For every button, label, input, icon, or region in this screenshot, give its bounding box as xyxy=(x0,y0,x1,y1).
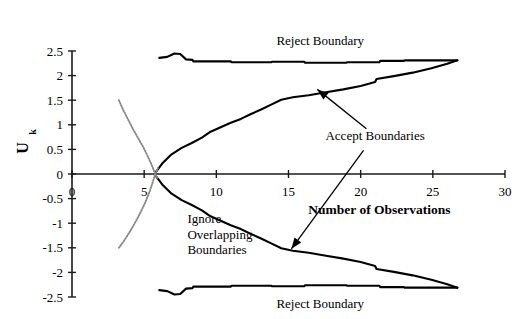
annotation-reject-boundary-top: Reject Boundary xyxy=(276,33,364,48)
y-axis-title: U k xyxy=(14,129,38,154)
y-tick-label: -0.5 xyxy=(42,191,63,206)
x-tick-label: 25 xyxy=(426,184,439,199)
y-tick-label: -2.5 xyxy=(42,290,63,305)
x-tick-label: 10 xyxy=(210,184,223,199)
y-tick-label: 1 xyxy=(57,117,64,132)
y-tick-label: 0 xyxy=(57,167,64,182)
y-axis-title-subscript: k xyxy=(27,129,38,135)
x-axis-title: Number of Observations xyxy=(308,202,450,217)
series-ignore-overlapping-boundary-upper xyxy=(119,100,157,178)
annotation-labels-layer: Reject BoundaryReject BoundaryAccept Bou… xyxy=(187,33,424,311)
y-tick-label: 2.5 xyxy=(47,44,63,59)
y-tick-label: -1 xyxy=(52,216,63,231)
y-tick-label: 0.5 xyxy=(47,142,63,157)
x-tick-label: 0 xyxy=(69,184,76,199)
arrow-to-upper-accept xyxy=(317,89,366,128)
x-tick-label: 20 xyxy=(354,184,367,199)
series-lower-reject-boundary xyxy=(159,285,457,294)
annotation-line: Boundaries xyxy=(187,242,246,257)
chart-figure: -2.5-2-1.5-1-0.500.511.522.5051015202530… xyxy=(0,0,532,319)
annotation-arrows-layer xyxy=(291,89,366,248)
x-tick-label: 15 xyxy=(282,184,295,199)
arrow-head xyxy=(291,237,301,248)
arrow-shaft xyxy=(291,150,363,248)
y-tick-label: 2 xyxy=(57,68,64,83)
x-tick-label: 30 xyxy=(499,184,512,199)
y-tick-label: -1.5 xyxy=(42,240,63,255)
annotation-line: Ignore xyxy=(187,211,221,226)
series-ignore-overlapping-boundary-lower xyxy=(119,168,158,248)
arrow-to-lower-accept xyxy=(291,150,363,248)
series-upper-reject-boundary xyxy=(159,53,457,62)
annotation-line: Overlapping xyxy=(187,227,252,242)
y-axis-title-main: U xyxy=(14,142,31,154)
annotation-accept-boundaries: Accept Boundaries xyxy=(325,128,424,143)
series-upper-accept-boundary xyxy=(155,60,457,173)
annotation-ignore-overlapping-boundaries: IgnoreOverlappingBoundaries xyxy=(187,211,252,257)
y-tick-label: -2 xyxy=(52,265,63,280)
annotation-reject-boundary-bottom: Reject Boundary xyxy=(276,296,364,311)
x-tick-label: 5 xyxy=(141,184,148,199)
y-tick-label: 1.5 xyxy=(47,93,63,108)
boundaries-chart: -2.5-2-1.5-1-0.500.511.522.5051015202530… xyxy=(0,0,532,319)
axes-layer xyxy=(68,51,505,297)
